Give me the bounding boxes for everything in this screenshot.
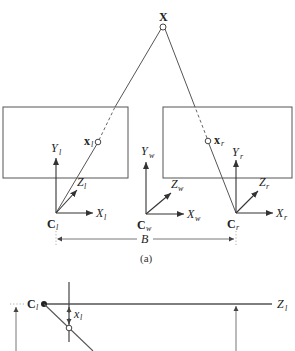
svg-text:X: X — [275, 206, 284, 220]
svg-text:x: x — [84, 134, 90, 148]
svg-text:l: l — [285, 304, 288, 313]
caption-a: (a) — [140, 252, 153, 265]
world-point: X — [159, 10, 168, 30]
left-image-point: x l — [84, 134, 101, 149]
stereo-geometry-diagram: X x l x r Y l X l Z l C l — [0, 0, 295, 351]
bottom-diagram: Z l C l x l — [10, 282, 288, 351]
svg-text:w: w — [178, 184, 184, 193]
svg-text:l: l — [36, 303, 39, 312]
left-camera-frame: Y l X l Z l C l — [47, 141, 107, 232]
svg-text:X: X — [95, 206, 104, 220]
svg-text:w: w — [195, 214, 201, 223]
svg-text:x: x — [73, 307, 80, 321]
svg-text:Y: Y — [141, 144, 149, 158]
right-image-point: x r — [205, 133, 225, 148]
right-image-plane — [163, 107, 292, 178]
svg-text:Z: Z — [171, 177, 178, 191]
svg-text:C: C — [27, 297, 36, 311]
baseline-dimension: B — [56, 231, 236, 247]
svg-text:r: r — [284, 213, 288, 222]
right-z-axis-arrow — [236, 191, 258, 213]
svg-text:l: l — [56, 223, 59, 232]
svg-text:r: r — [266, 182, 270, 191]
svg-text:C: C — [137, 218, 146, 232]
svg-text:l: l — [80, 313, 83, 322]
svg-text:r: r — [221, 139, 225, 148]
svg-text:X: X — [186, 207, 195, 221]
svg-text:l: l — [59, 148, 62, 157]
svg-text:r: r — [236, 223, 240, 232]
svg-text:Z: Z — [259, 175, 266, 189]
baseline-label: B — [141, 232, 149, 246]
left-z-axis-arrow — [56, 190, 77, 213]
svg-text:C: C — [47, 217, 56, 231]
left-projection-ray — [56, 29, 161, 213]
svg-text:l: l — [91, 140, 94, 149]
projected-point — [66, 325, 72, 331]
svg-text:C: C — [227, 217, 236, 231]
svg-text:Z: Z — [77, 175, 84, 189]
svg-text:l: l — [84, 182, 87, 191]
svg-text:w: w — [149, 151, 155, 160]
left-image-plane — [3, 107, 128, 178]
svg-text:Z: Z — [277, 297, 284, 311]
world-z-axis-arrow — [146, 193, 171, 214]
world-frame: Y w X w Z w C w — [137, 144, 201, 233]
svg-text:x: x — [214, 133, 220, 147]
svg-text:Y: Y — [232, 145, 240, 159]
svg-text:Y: Y — [51, 141, 59, 155]
world-point-label: X — [159, 10, 168, 24]
svg-text:l: l — [104, 213, 107, 222]
right-camera-frame: Y r X r Z r C r — [227, 145, 288, 232]
svg-text:r: r — [240, 152, 244, 161]
